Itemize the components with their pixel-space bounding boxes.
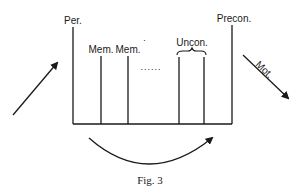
mot-label: Mot.: [254, 59, 276, 80]
mem1-label: Mem.: [89, 44, 114, 55]
curved-right-arrow-icon: [89, 138, 212, 164]
up-right-arrow-icon: [13, 63, 57, 115]
uncon-brace-icon: [177, 48, 206, 55]
per-label: Per.: [64, 15, 82, 26]
precon-label: Precon.: [217, 13, 251, 24]
diagram-canvas: Per. Mem. Mem. ˙ ...... Uncon. Precon. M…: [0, 0, 300, 194]
mem2-prime-mark: ˙: [143, 39, 146, 50]
figure-caption: Fig. 3: [137, 174, 163, 186]
ellipsis-label: ......: [140, 62, 161, 72]
mem2-label: Mem.: [116, 44, 141, 55]
